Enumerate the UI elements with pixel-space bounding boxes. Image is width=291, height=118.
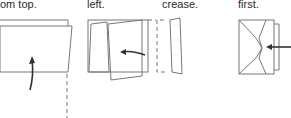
step3-overlay bbox=[0, 0, 291, 118]
